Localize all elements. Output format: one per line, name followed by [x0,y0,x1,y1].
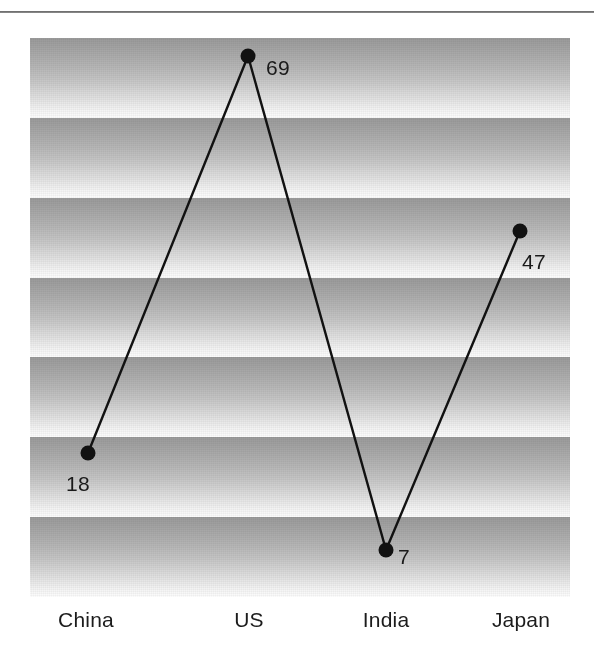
data-point-marker-japan [513,224,528,239]
data-point-value-us: 69 [266,57,290,78]
x-axis-label-japan: Japan [492,607,550,633]
data-point-value-india: 7 [398,546,410,567]
x-axis-label-china: China [58,607,114,633]
data-series-layer [30,38,570,597]
series-line [88,56,520,550]
data-point-marker-us [241,49,256,64]
plot-area: 1869747 [30,38,570,597]
x-axis-label-india: India [363,607,410,633]
data-point-value-japan: 47 [522,251,546,272]
category-axis: ChinaUSIndiaJapan [30,607,570,641]
x-axis-label-us: US [234,607,264,633]
data-point-marker-china [81,446,96,461]
data-point-marker-india [379,543,394,558]
line-chart-figure: 1869747 ChinaUSIndiaJapan [0,0,594,669]
page-top-rule [0,11,594,13]
data-point-value-china: 18 [66,473,90,494]
